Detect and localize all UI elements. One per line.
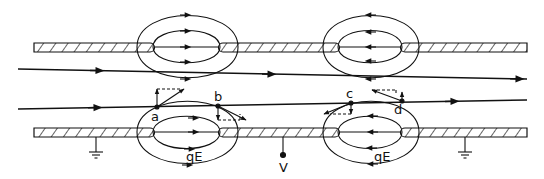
lens-diagram: a b c d qE qE V bbox=[0, 0, 544, 179]
label-qe-right: qE bbox=[374, 149, 390, 164]
label-a: a bbox=[151, 109, 159, 124]
label-b: b bbox=[214, 89, 222, 104]
label-c: c bbox=[346, 86, 353, 101]
lower-tube bbox=[34, 128, 527, 137]
voltage-terminal bbox=[281, 137, 286, 158]
lower-trajectory bbox=[18, 100, 527, 109]
right-ground-icon bbox=[458, 137, 472, 158]
upper-trajectory bbox=[18, 69, 527, 79]
label-voltage: V bbox=[279, 160, 288, 175]
label-qe-left: qE bbox=[186, 149, 202, 164]
label-d: d bbox=[394, 102, 402, 117]
left-ground-icon bbox=[89, 137, 103, 158]
upper-tube bbox=[34, 43, 527, 52]
vector-b bbox=[216, 104, 246, 120]
